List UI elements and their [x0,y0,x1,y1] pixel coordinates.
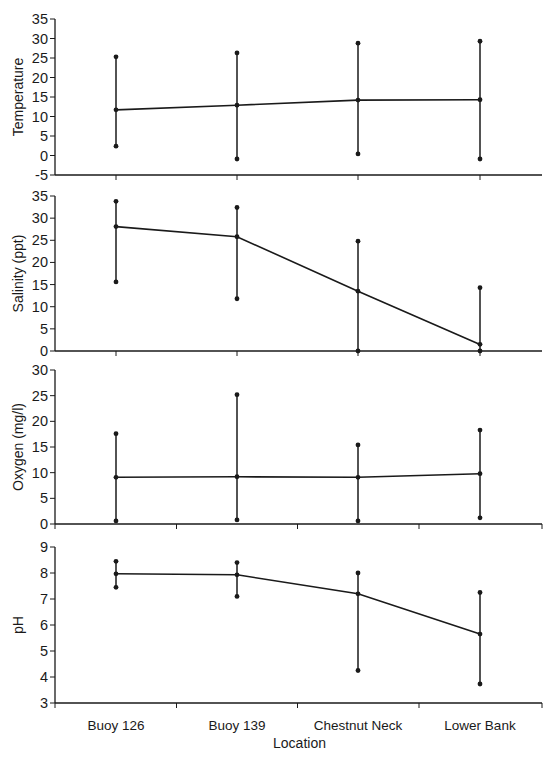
salinity-ppt-y-tick-label: 25 [32,232,48,248]
ph-max-marker [235,560,240,565]
oxygen-mg-l-mean-marker [235,474,240,479]
ph-y-tick-label: 5 [40,643,48,659]
oxygen-mg-l-y-tick-label: 5 [40,490,48,506]
salinity-ppt-y-tick-label: 10 [32,299,48,315]
x-category-label-buoy-126: Buoy 126 [87,718,144,733]
temperature-mean-line [116,100,480,110]
temperature-y-tick-label: 0 [40,148,48,164]
oxygen-mg-l-y-axis-title: Oxygen (mg/l) [10,403,26,491]
ph-y-tick-label: 4 [40,669,48,685]
salinity-ppt-y-tick-label: 5 [40,321,48,337]
ph-mean-marker [478,632,483,637]
salinity-ppt-mean-marker [356,289,361,294]
ph-mean-marker [356,591,361,596]
ph-mean-marker [114,571,119,576]
salinity-ppt-mean-line [116,227,480,345]
oxygen-mg-l-min-marker [356,519,361,524]
oxygen-mg-l-y-tick-label: 25 [32,388,48,404]
salinity-ppt-min-marker [478,349,483,354]
oxygen-mg-l-min-marker [235,517,240,522]
temperature-y-tick-label: 10 [32,109,48,125]
chart-figure: -505101520253035Temperature0510152025303… [0,0,553,760]
chart-canvas: -505101520253035Temperature0510152025303… [0,0,553,760]
temperature-y-tick-label: 5 [40,128,48,144]
oxygen-mg-l-mean-marker [356,475,361,480]
ph-min-marker [356,668,361,673]
salinity-ppt-max-marker [114,199,119,204]
temperature-y-tick-label: 15 [32,89,48,105]
temperature-mean-marker [478,97,483,102]
oxygen-mg-l-mean-line [116,474,480,478]
ph-y-tick-label: 9 [40,539,48,555]
ph-min-marker [235,594,240,599]
ph-y-tick-label: 3 [40,695,48,711]
temperature-max-marker [235,51,240,56]
temperature-max-marker [478,39,483,44]
temperature-min-marker [356,152,361,157]
x-category-label-chestnut-neck: Chestnut Neck [314,718,403,733]
oxygen-mg-l-mean-marker [478,471,483,476]
temperature-mean-marker [356,98,361,103]
oxygen-mg-l-y-tick-label: 30 [32,362,48,378]
ph-y-tick-label: 7 [40,591,48,607]
salinity-ppt-y-tick-label: 35 [32,188,48,204]
oxygen-mg-l-min-marker [478,515,483,520]
x-category-label-lower-bank: Lower Bank [444,718,516,733]
salinity-ppt-y-tick-label: 15 [32,277,48,293]
oxygen-mg-l-max-marker [478,428,483,433]
temperature-y-tick-label: 25 [32,50,48,66]
salinity-ppt-mean-marker [478,342,483,347]
salinity-ppt-min-marker [114,280,119,285]
salinity-ppt-y-axis-title: Salinity (ppt) [10,235,26,313]
x-category-label-buoy-139: Buoy 139 [208,718,265,733]
temperature-max-marker [114,54,119,59]
ph-mean-line [116,574,480,634]
salinity-ppt-min-marker [356,349,361,354]
temperature-y-tick-label: 35 [32,11,48,27]
temperature-mean-marker [235,103,240,108]
temperature-min-marker [478,157,483,162]
ph-y-tick-label: 8 [40,565,48,581]
ph-min-marker [478,682,483,687]
salinity-ppt-max-marker [235,205,240,210]
x-axis-title: Location [273,735,326,751]
salinity-ppt-max-marker [478,285,483,290]
salinity-ppt-y-tick-label: 20 [32,254,48,270]
salinity-ppt-mean-marker [114,224,119,229]
temperature-y-tick-label: -5 [35,167,48,183]
oxygen-mg-l-max-marker [235,392,240,397]
ph-max-marker [356,571,361,576]
temperature-mean-marker [114,107,119,112]
salinity-ppt-y-tick-label: 30 [32,210,48,226]
oxygen-mg-l-y-tick-label: 20 [32,413,48,429]
oxygen-mg-l-y-tick-label: 15 [32,439,48,455]
ph-y-tick-label: 6 [40,617,48,633]
oxygen-mg-l-max-marker [356,443,361,448]
salinity-ppt-min-marker [235,296,240,301]
temperature-y-tick-label: 20 [32,70,48,86]
salinity-ppt-max-marker [356,239,361,244]
oxygen-mg-l-mean-marker [114,475,119,480]
ph-max-marker [114,559,119,564]
ph-y-axis-title: pH [10,616,26,634]
temperature-y-tick-label: 30 [32,31,48,47]
salinity-ppt-y-tick-label: 0 [40,343,48,359]
temperature-y-axis-title: Temperature [10,57,26,136]
ph-max-marker [478,590,483,595]
ph-mean-marker [235,572,240,577]
oxygen-mg-l-y-tick-label: 0 [40,516,48,532]
oxygen-mg-l-min-marker [114,519,119,524]
oxygen-mg-l-max-marker [114,431,119,436]
ph-min-marker [114,585,119,590]
salinity-ppt-mean-marker [235,234,240,239]
temperature-min-marker [235,157,240,162]
oxygen-mg-l-y-tick-label: 10 [32,465,48,481]
temperature-max-marker [356,41,361,46]
temperature-min-marker [114,144,119,149]
